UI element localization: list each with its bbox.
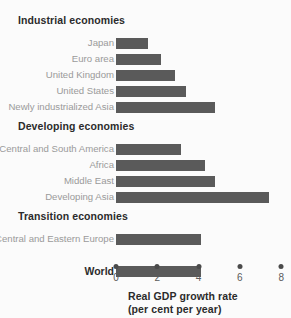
bar	[116, 192, 269, 203]
bar	[116, 102, 215, 113]
bar-category-label: Japan	[0, 37, 114, 49]
bar-category-label: Central and South America	[0, 143, 114, 155]
bar-row: Newly industrialized Asia	[0, 102, 291, 113]
bar-category-label: Central and Eastern Europe	[0, 233, 114, 245]
bar-row: Developing Asia	[0, 192, 291, 203]
bar	[116, 266, 201, 277]
bar-category-label: World	[0, 265, 114, 277]
bar-category-label: Middle East	[0, 175, 114, 187]
bar	[116, 54, 161, 65]
x-axis-title-line1: Real GDP growth rate	[128, 290, 238, 302]
bar-category-label: Developing Asia	[0, 191, 114, 203]
bar-category-label: United States	[0, 85, 114, 97]
bar-category-label: Euro area	[0, 53, 114, 65]
gdp-growth-bar-chart: Industrial economiesJapanEuro areaUnited…	[0, 0, 291, 318]
bar-category-label: United Kingdom	[0, 69, 114, 81]
bar-row: Japan	[0, 38, 291, 49]
x-axis-title-line2: (per cent per year)	[128, 303, 222, 315]
bar	[116, 234, 201, 245]
bar-row: Central and Eastern Europe	[0, 234, 291, 245]
group-header-developing-economies: Developing economies	[18, 120, 134, 132]
bar-row: United States	[0, 86, 291, 97]
bar	[116, 38, 148, 49]
bar-row: World	[0, 266, 291, 277]
group-header-industrial-economies: Industrial economies	[18, 14, 125, 26]
bar-row: Middle East	[0, 176, 291, 187]
bar-row: Euro area	[0, 54, 291, 65]
group-header-transition-economies: Transition economies	[18, 210, 128, 222]
bar-row: Africa	[0, 160, 291, 171]
bar	[116, 144, 181, 155]
bar-category-label: Newly industrialized Asia	[0, 101, 114, 113]
bar-category-label: Africa	[0, 159, 114, 171]
bar	[116, 86, 186, 97]
bar-row: Central and South America	[0, 144, 291, 155]
bar-row: United Kingdom	[0, 70, 291, 81]
bar	[116, 176, 215, 187]
bar	[116, 160, 205, 171]
bar	[116, 70, 175, 81]
